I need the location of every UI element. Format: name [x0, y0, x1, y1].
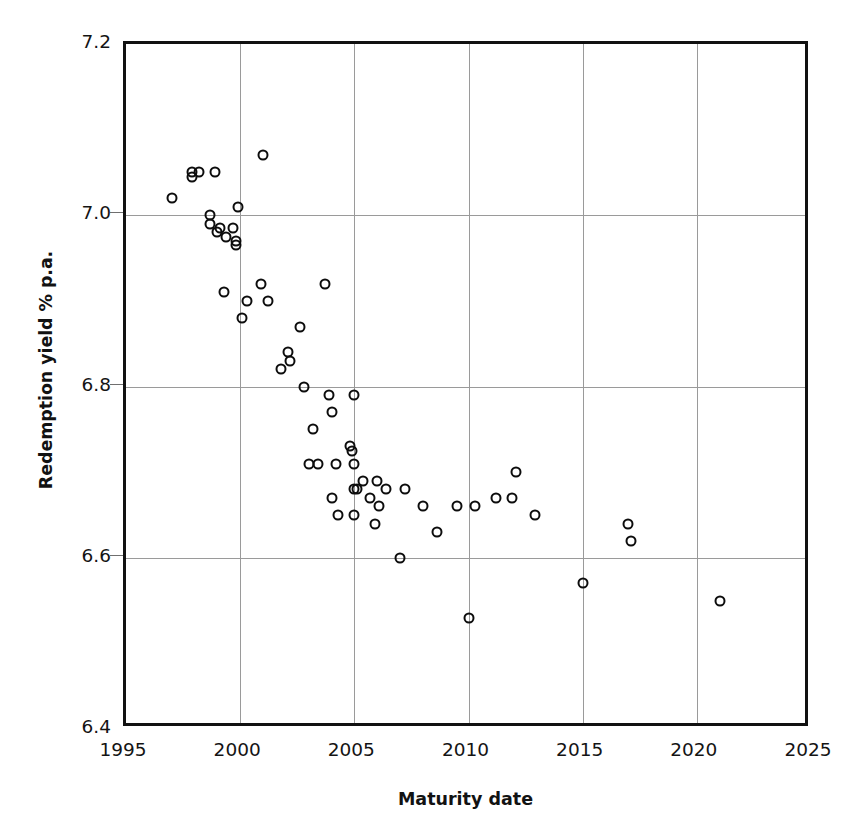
- data-point: [294, 321, 305, 332]
- data-point: [232, 201, 243, 212]
- y-axis-tick-label: 7.2: [53, 31, 111, 52]
- data-point: [452, 501, 463, 512]
- data-point: [242, 295, 253, 306]
- data-point: [417, 501, 428, 512]
- x-axis-tick-label: 2005: [306, 739, 396, 760]
- y-axis-tick-mark: [110, 212, 123, 213]
- data-point: [470, 501, 481, 512]
- data-point: [374, 501, 385, 512]
- x-axis-tick-label: 2010: [421, 739, 511, 760]
- data-point: [285, 355, 296, 366]
- data-point: [308, 424, 319, 435]
- data-point-series: [126, 44, 805, 723]
- data-point: [210, 167, 221, 178]
- y-axis-tick-mark: [110, 555, 123, 556]
- data-point: [714, 595, 725, 606]
- x-axis-tick-label: 2000: [192, 739, 282, 760]
- x-axis-tick-label: 2015: [535, 739, 625, 760]
- data-point: [219, 287, 230, 298]
- data-point: [262, 295, 273, 306]
- data-point: [490, 492, 501, 503]
- scatter-chart-figure: Redemption yield % p.a. 7.27.06.86.66.4 …: [0, 0, 853, 834]
- data-point: [625, 535, 636, 546]
- data-point: [228, 223, 239, 234]
- data-point: [333, 509, 344, 520]
- plot-area: [123, 41, 808, 726]
- data-point: [623, 518, 634, 529]
- data-point: [369, 518, 380, 529]
- x-axis-tick-label: 1995: [78, 739, 168, 760]
- x-axis-tick-labels: 1995200020052010201520202025: [0, 739, 853, 779]
- data-point: [166, 193, 177, 204]
- data-point: [511, 467, 522, 478]
- data-point: [381, 484, 392, 495]
- data-point: [276, 364, 287, 375]
- data-point: [506, 492, 517, 503]
- data-point: [365, 492, 376, 503]
- data-point: [326, 492, 337, 503]
- y-axis-tick-label: 6.4: [53, 716, 111, 737]
- y-axis-tick-mark: [110, 384, 123, 385]
- data-point: [331, 458, 342, 469]
- data-point: [463, 612, 474, 623]
- data-point: [326, 407, 337, 418]
- data-point: [372, 475, 383, 486]
- data-point: [255, 278, 266, 289]
- data-point: [237, 313, 248, 324]
- y-axis-tick-label: 6.8: [53, 373, 111, 394]
- data-point: [299, 381, 310, 392]
- data-point: [529, 509, 540, 520]
- data-point: [399, 484, 410, 495]
- x-axis-tick-label: 2020: [649, 739, 739, 760]
- data-point: [395, 552, 406, 563]
- data-point: [312, 458, 323, 469]
- data-point: [324, 390, 335, 401]
- x-axis-tick-label: 2025: [763, 739, 853, 760]
- y-axis-tick-labels: 7.27.06.86.66.4: [47, 0, 111, 834]
- data-point: [349, 458, 360, 469]
- data-point: [349, 509, 360, 520]
- data-point: [194, 167, 205, 178]
- data-point: [319, 278, 330, 289]
- data-point: [230, 240, 241, 251]
- x-axis-title: Maturity date: [123, 789, 808, 809]
- data-point: [431, 527, 442, 538]
- y-axis-tick-label: 6.6: [53, 544, 111, 565]
- data-point: [577, 578, 588, 589]
- data-point: [258, 150, 269, 161]
- data-point: [358, 475, 369, 486]
- data-point: [347, 445, 358, 456]
- data-point: [349, 390, 360, 401]
- y-axis-tick-label: 7.0: [53, 202, 111, 223]
